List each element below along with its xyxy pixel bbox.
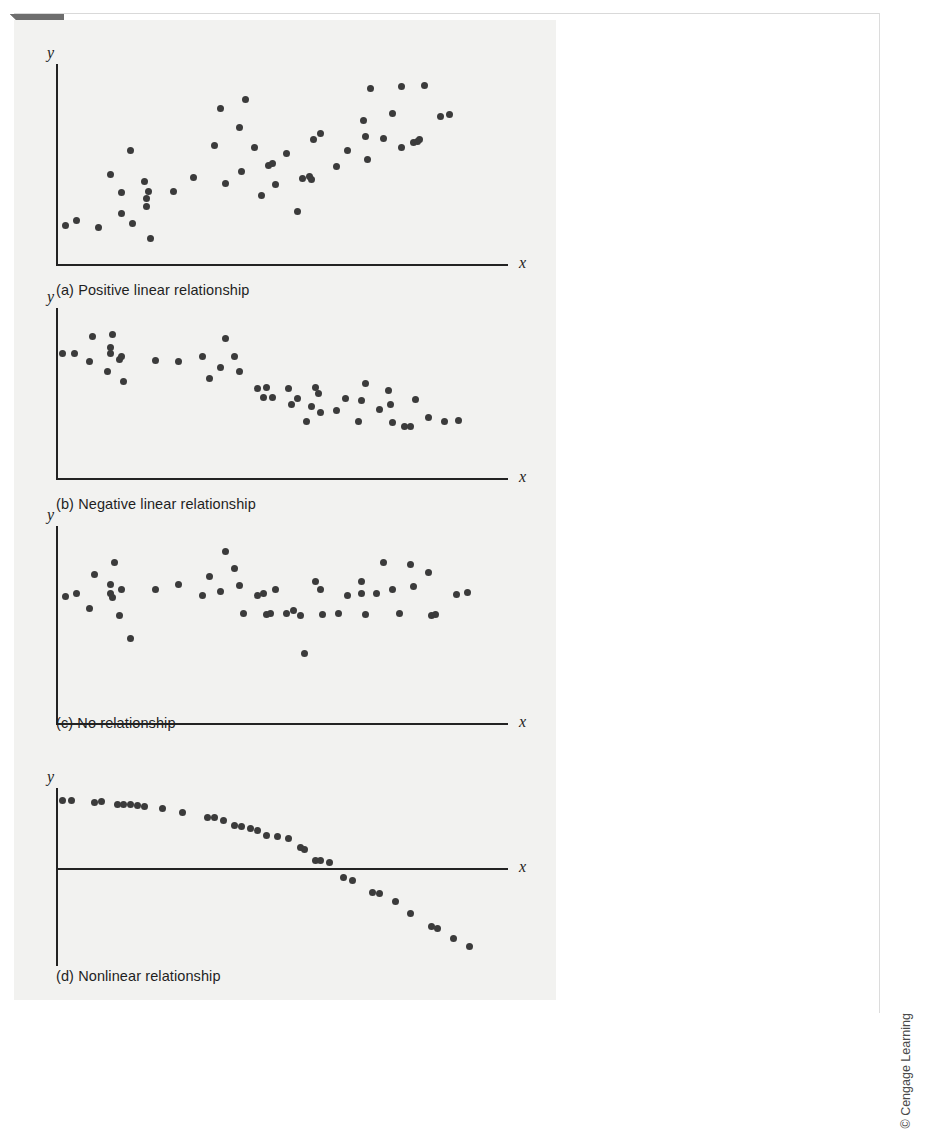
data-point: [222, 180, 229, 187]
data-point: [127, 635, 134, 642]
data-point: [91, 799, 98, 806]
data-point: [317, 130, 324, 137]
data-point: [389, 419, 396, 426]
data-point: [335, 610, 342, 617]
data-point: [317, 409, 324, 416]
data-point: [116, 612, 123, 619]
data-point: [73, 217, 80, 224]
data-point: [211, 814, 218, 821]
data-point: [251, 144, 258, 151]
data-point: [396, 610, 403, 617]
data-point: [98, 798, 105, 805]
data-point: [360, 117, 367, 124]
data-point: [358, 397, 365, 404]
data-point: [362, 611, 369, 618]
data-point: [199, 592, 206, 599]
x-axis-line: [56, 478, 508, 480]
data-point: [62, 593, 69, 600]
data-point: [59, 350, 66, 357]
data-point: [258, 192, 265, 199]
data-point: [362, 380, 369, 387]
data-point: [310, 136, 317, 143]
data-point: [145, 188, 152, 195]
data-point: [107, 171, 114, 178]
data-point: [342, 395, 349, 402]
data-point: [373, 590, 380, 597]
data-point: [217, 588, 224, 595]
plot-area: yx: [56, 526, 508, 723]
data-point: [111, 559, 118, 566]
data-point: [247, 825, 254, 832]
data-point: [437, 113, 444, 120]
data-point: [267, 610, 274, 617]
y-axis-label: y: [47, 769, 54, 785]
data-point: [73, 590, 80, 597]
data-point: [107, 581, 114, 588]
data-point: [412, 396, 419, 403]
data-point: [407, 910, 414, 917]
data-point: [410, 583, 417, 590]
data-point: [231, 822, 238, 829]
data-point: [120, 378, 127, 385]
data-point: [355, 418, 362, 425]
data-point: [236, 124, 243, 131]
data-point: [380, 559, 387, 566]
data-point: [199, 353, 206, 360]
data-point: [86, 605, 93, 612]
data-point: [231, 565, 238, 572]
data-point: [222, 548, 229, 555]
data-point: [175, 581, 182, 588]
y-axis-line: [56, 526, 58, 723]
data-point: [299, 175, 306, 182]
data-point: [62, 222, 69, 229]
data-point: [450, 935, 457, 942]
data-point: [283, 150, 290, 157]
data-point: [104, 368, 111, 375]
data-point: [272, 586, 279, 593]
panel-caption: (c) No relationship: [56, 715, 176, 731]
data-point: [222, 335, 229, 342]
data-point: [364, 156, 371, 163]
data-point: [297, 612, 304, 619]
y-axis-line: [56, 788, 58, 966]
data-point: [211, 142, 218, 149]
data-point: [333, 163, 340, 170]
data-point: [109, 594, 116, 601]
data-point: [441, 418, 448, 425]
data-point: [398, 83, 405, 90]
data-point: [407, 561, 414, 568]
data-point: [362, 133, 369, 140]
data-point: [141, 178, 148, 185]
data-point: [59, 797, 66, 804]
data-point: [285, 835, 292, 842]
x-axis-label: x: [519, 469, 526, 485]
data-point: [308, 176, 315, 183]
plot-area: yx: [56, 64, 508, 264]
data-point: [86, 358, 93, 365]
plot-area: yx: [56, 788, 508, 966]
data-point: [333, 407, 340, 414]
data-point: [294, 208, 301, 215]
data-point: [179, 809, 186, 816]
data-point: [421, 82, 428, 89]
data-point: [358, 590, 365, 597]
plot-area: yx: [56, 308, 508, 478]
data-point: [288, 401, 295, 408]
data-point: [147, 235, 154, 242]
data-point: [301, 846, 308, 853]
data-point: [263, 832, 270, 839]
data-point: [446, 111, 453, 118]
data-point: [358, 578, 365, 585]
x-axis-label: x: [519, 714, 526, 730]
data-point: [143, 203, 150, 210]
data-point: [398, 144, 405, 151]
page-edge-top: [14, 13, 879, 14]
data-point: [274, 833, 281, 840]
data-point: [283, 610, 290, 617]
copyright-credit: © Cengage Learning: [899, 1013, 913, 1129]
y-axis-line: [56, 64, 58, 264]
data-point: [434, 925, 441, 932]
data-point: [389, 110, 396, 117]
data-point: [95, 224, 102, 231]
